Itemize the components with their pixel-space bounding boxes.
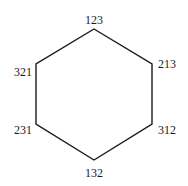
hexagon-outline [36,29,152,160]
vertex-label-top: 123 [85,13,103,27]
vertex-label-bottom: 132 [85,166,103,180]
vertex-label-upper-right: 213 [158,57,176,71]
vertex-label-lower-right: 312 [158,123,176,137]
vertex-label-upper-left: 321 [14,65,32,79]
hexagon-diagram: 123 213 312 132 231 321 [0,0,188,186]
vertex-label-lower-left: 231 [14,123,32,137]
